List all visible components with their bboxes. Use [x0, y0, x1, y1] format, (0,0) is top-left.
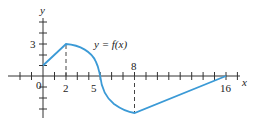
tick-label-3: 3 — [30, 38, 36, 50]
y-axis-label: y — [39, 4, 45, 16]
axes — [8, 18, 240, 118]
tick-label-8: 8 — [131, 60, 137, 72]
function-graph: y x 3 0 2 5 8 16 y = f(x) — [0, 0, 257, 132]
tick-label-0: 0 — [36, 79, 42, 91]
tick-label-16: 16 — [220, 82, 232, 94]
x-axis-label: x — [241, 76, 247, 88]
tick-label-2: 2 — [63, 82, 69, 94]
tick-label-5: 5 — [91, 82, 97, 94]
curve-label: y = f(x) — [93, 38, 127, 51]
